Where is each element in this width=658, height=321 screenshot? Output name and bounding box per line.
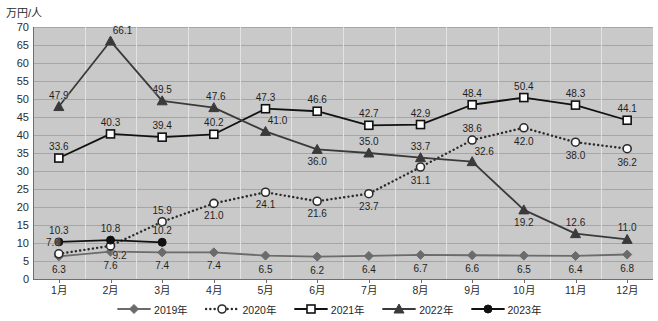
legend-label: 2021年 xyxy=(331,302,364,317)
data-point-marker xyxy=(107,236,115,244)
data-point-marker xyxy=(484,305,492,313)
data-point-marker xyxy=(468,136,476,144)
data-label: 40.2 xyxy=(204,117,223,128)
data-point-marker xyxy=(623,116,631,124)
data-point-marker xyxy=(261,126,271,135)
legend-marker-icon xyxy=(294,303,328,315)
legend-marker-icon xyxy=(471,303,505,315)
data-label: 50.4 xyxy=(514,80,533,91)
data-label: 42.7 xyxy=(359,108,378,119)
data-label: 10.8 xyxy=(101,223,120,234)
data-point-marker xyxy=(307,305,315,313)
legend-marker-icon xyxy=(205,303,239,315)
x-axis-tickmark xyxy=(162,279,163,283)
data-point-marker xyxy=(313,252,322,261)
data-label: 6.8 xyxy=(620,262,634,273)
legend-item-2022年[interactable]: 2022年 xyxy=(382,302,452,317)
data-label: 21.0 xyxy=(204,210,223,221)
legend-item-2021年[interactable]: 2021年 xyxy=(294,302,364,317)
data-label: 10.2 xyxy=(152,225,171,236)
data-point-marker xyxy=(55,250,63,258)
legend-item-2023年[interactable]: 2023年 xyxy=(471,302,541,317)
x-axis-tickmark xyxy=(421,279,422,283)
x-axis-tickmark xyxy=(369,279,370,283)
data-point-marker xyxy=(262,188,270,196)
data-label: 6.3 xyxy=(52,264,66,275)
data-label: 47.9 xyxy=(49,89,68,100)
data-label: 6.6 xyxy=(465,263,479,274)
series-line-2021年 xyxy=(59,98,627,158)
legend-item-2019年[interactable]: 2019年 xyxy=(117,302,187,317)
x-axis-tickmark xyxy=(59,279,60,283)
data-point-marker xyxy=(571,251,580,260)
data-point-marker xyxy=(130,305,139,314)
data-point-marker xyxy=(106,36,116,45)
data-label: 21.6 xyxy=(307,208,326,219)
data-label: 10.3 xyxy=(49,224,68,235)
data-point-marker xyxy=(364,251,373,260)
data-point-marker xyxy=(572,101,580,109)
series-line-2019年 xyxy=(59,252,627,257)
data-point-marker xyxy=(417,121,425,129)
legend-label: 2019年 xyxy=(154,302,187,317)
line-chart: 万円/人 0510152025303540455055606570 1月2月3月… xyxy=(0,0,658,321)
data-point-marker xyxy=(158,248,167,257)
data-label: 40.3 xyxy=(101,116,120,127)
legend-item-2020年[interactable]: 2020年 xyxy=(205,302,275,317)
legend-marker-icon xyxy=(117,303,151,315)
data-point-marker xyxy=(468,101,476,109)
x-axis-tickmark xyxy=(524,279,525,283)
series-line-2020年 xyxy=(59,128,627,254)
data-label: 11.0 xyxy=(618,222,637,233)
data-label: 33.6 xyxy=(49,141,68,152)
data-point-marker xyxy=(218,305,226,313)
data-label: 33.7 xyxy=(411,140,430,151)
data-point-marker xyxy=(623,145,631,153)
data-label: 6.4 xyxy=(569,263,583,274)
data-label: 42.9 xyxy=(411,107,430,118)
data-label: 47.3 xyxy=(256,91,275,102)
series-layer xyxy=(0,0,658,321)
legend-marker-icon xyxy=(382,303,416,315)
x-axis-tickmark xyxy=(317,279,318,283)
data-label: 48.3 xyxy=(566,88,585,99)
data-label: 44.1 xyxy=(617,103,636,114)
data-point-marker xyxy=(210,199,218,207)
data-label: 23.7 xyxy=(359,200,378,211)
data-label: 36.0 xyxy=(307,156,326,167)
data-label: 7.4 xyxy=(155,260,169,271)
data-label: 6.7 xyxy=(414,262,428,273)
data-point-marker xyxy=(262,105,270,113)
data-point-marker xyxy=(416,250,425,259)
data-point-marker xyxy=(520,124,528,132)
chart-legend: 2019年2020年2021年2022年2023年 xyxy=(0,299,658,319)
data-point-marker xyxy=(572,138,580,146)
data-point-marker xyxy=(520,94,528,102)
data-label: 7.6 xyxy=(104,259,118,270)
x-axis-tickmark xyxy=(627,279,628,283)
data-label: 9.2 xyxy=(113,249,127,260)
x-axis-tickmark xyxy=(472,279,473,283)
data-label: 49.5 xyxy=(152,83,171,94)
data-point-marker xyxy=(365,121,373,129)
data-label: 41.0 xyxy=(268,115,287,126)
data-label: 35.0 xyxy=(359,136,378,147)
legend-label: 2020年 xyxy=(242,302,275,317)
data-label: 46.6 xyxy=(307,94,326,105)
data-label: 47.6 xyxy=(206,90,225,101)
data-label: 48.4 xyxy=(462,87,481,98)
legend-label: 2023年 xyxy=(508,302,541,317)
data-point-marker xyxy=(313,197,321,205)
data-label: 7.4 xyxy=(207,260,221,271)
data-label: 31.1 xyxy=(411,175,430,186)
data-point-marker xyxy=(107,130,115,138)
data-point-marker xyxy=(623,250,632,259)
data-label: 38.6 xyxy=(462,123,481,134)
data-label: 39.4 xyxy=(152,120,171,131)
data-point-marker xyxy=(468,251,477,260)
data-point-marker xyxy=(261,251,270,260)
data-label: 6.5 xyxy=(259,263,273,274)
data-point-marker xyxy=(210,130,218,138)
x-axis-tickmark xyxy=(266,279,267,283)
data-label: 38.0 xyxy=(566,150,585,161)
